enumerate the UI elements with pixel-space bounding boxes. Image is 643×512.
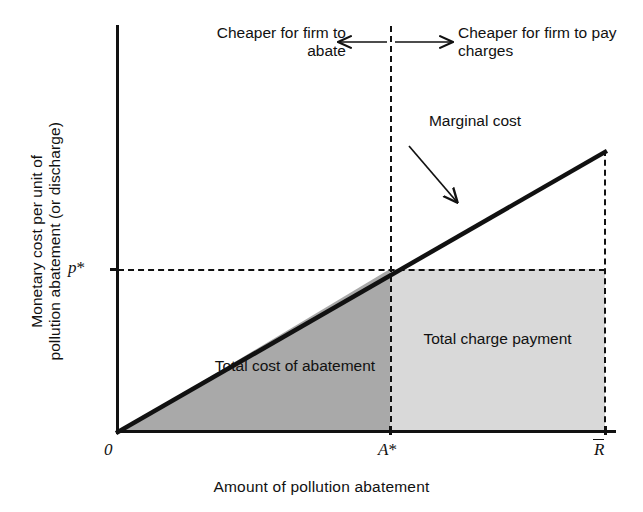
axis-label-r-bar: R bbox=[594, 440, 604, 460]
p-star-asterisk: * bbox=[77, 258, 86, 277]
y-axis-caption-line1: Monetary cost per unit of bbox=[28, 61, 46, 421]
axis-label-p-star: p* bbox=[68, 258, 85, 278]
marginal-cost-leader-arrow-icon bbox=[395, 140, 505, 220]
a-star-asterisk: * bbox=[388, 440, 397, 459]
x-axis-caption: Amount of pollution abatement bbox=[0, 478, 643, 496]
annotation-double-arrow-icon bbox=[325, 28, 465, 58]
p-star-symbol: p bbox=[68, 258, 77, 277]
r-bar-symbol: R bbox=[594, 440, 604, 460]
annotation-cheaper-to-abate: Cheaper for firm to abate bbox=[196, 24, 346, 61]
marginal-cost-line bbox=[110, 140, 620, 440]
y-axis-caption-line2: pollution abatement (or discharge) bbox=[46, 61, 64, 421]
label-charge-line2: charge bbox=[460, 330, 507, 347]
marginal-cost-line1: Marginal bbox=[429, 112, 488, 129]
label-charge-line1: Total bbox=[423, 330, 456, 347]
chart-canvas: Cheaper for firm to abate Cheaper for fi… bbox=[0, 0, 643, 512]
marginal-cost-label: Marginal cost bbox=[415, 112, 535, 130]
axis-label-origin: 0 bbox=[104, 440, 113, 460]
axis-label-a-star: A* bbox=[378, 440, 397, 460]
label-cost-line2: of abatement bbox=[285, 357, 375, 374]
annotation-left-line1: Cheaper for bbox=[217, 24, 299, 41]
label-cost-line1: Total cost bbox=[215, 357, 280, 374]
y-axis-caption: Monetary cost per unit of pollution abat… bbox=[28, 61, 65, 421]
marginal-cost-line2: cost bbox=[493, 112, 521, 129]
annotation-cheaper-to-pay-charges: Cheaper for firm to pay charges bbox=[458, 24, 638, 61]
label-charge-line3: payment bbox=[512, 330, 571, 347]
label-total-cost-of-abatement: Total cost of abatement bbox=[200, 357, 390, 375]
label-total-charge-payment: Total charge payment bbox=[415, 330, 580, 348]
annotation-right-line1: Cheaper for firm bbox=[458, 24, 570, 41]
a-star-symbol: A bbox=[378, 440, 388, 459]
